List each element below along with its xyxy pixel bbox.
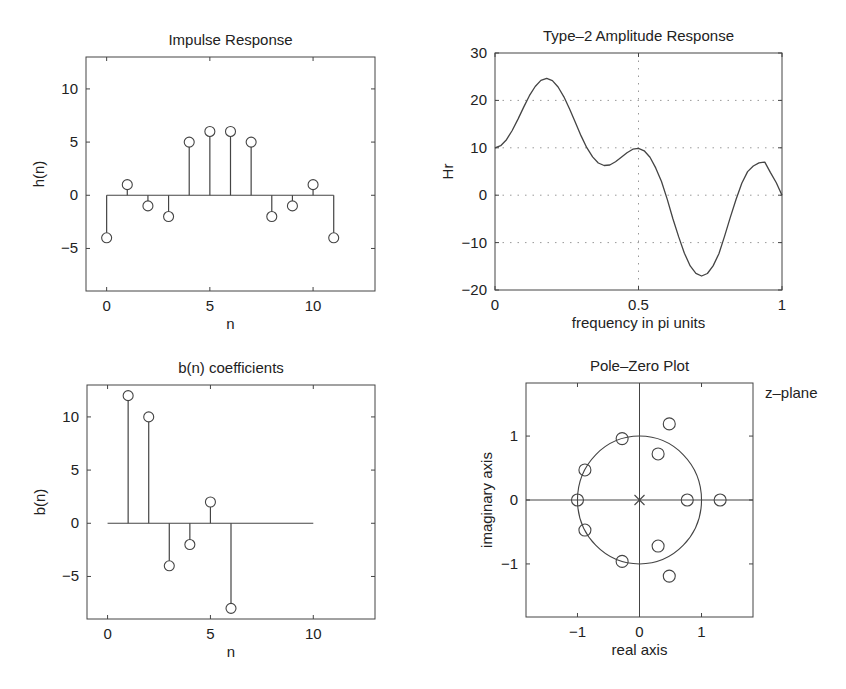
b-coefficients-chart: 0510−50510b(n) coefficientsnb(n) (31, 359, 375, 660)
x-axis-label: n (226, 315, 234, 332)
zero-marker (652, 448, 664, 460)
y-tick-label: 10 (62, 408, 79, 425)
pole-zero-chart: −101−101Pole–Zero Plotreal axisimaginary… (478, 357, 818, 658)
x-axis-label: frequency in pi units (572, 314, 705, 331)
y-tick-label: −5 (62, 567, 79, 584)
y-axis-label: b(n) (31, 489, 48, 516)
zero-marker (663, 418, 675, 430)
x-tick-label: 0 (103, 625, 111, 642)
stem-marker (102, 233, 112, 243)
y-axis-label: h(n) (30, 161, 47, 188)
stem-marker (122, 180, 132, 190)
stem-marker (205, 126, 215, 136)
x-tick-label: 5 (206, 297, 214, 314)
x-tick-label: −1 (569, 623, 586, 640)
x-tick-label: 1 (697, 623, 705, 640)
figure: 0510−50510Impulse Responsenh(n) 00.51−20… (0, 0, 846, 689)
y-tick-label: 0 (70, 186, 78, 203)
stem-marker (143, 201, 153, 211)
y-axis-label: imaginary axis (478, 452, 495, 548)
zero-marker (652, 540, 664, 552)
figure-canvas: 0510−50510Impulse Responsenh(n) 00.51−20… (0, 0, 846, 689)
x-axis-label: n (227, 643, 235, 660)
zero-marker (663, 570, 675, 582)
axes-box (495, 53, 782, 290)
x-tick-label: 10 (305, 625, 322, 642)
stem-marker (287, 201, 297, 211)
stem-marker (164, 561, 174, 571)
chart-title: Pole–Zero Plot (590, 357, 690, 374)
z-plane-annotation: z–plane (765, 384, 818, 401)
amplitude-curve (495, 78, 782, 276)
stem-marker (205, 497, 215, 507)
stem-marker (267, 212, 277, 222)
impulse-response-chart: 0510−50510Impulse Responsenh(n) (30, 31, 375, 332)
y-tick-label: 10 (470, 139, 487, 156)
y-tick-label: 0 (71, 514, 79, 531)
x-tick-label: 1 (778, 296, 786, 313)
amplitude-response-chart: 00.51−20−100102030Type–2 Amplitude Respo… (439, 27, 786, 331)
y-tick-label: 20 (470, 91, 487, 108)
x-tick-label: 5 (206, 625, 214, 642)
stem-marker (226, 126, 236, 136)
y-tick-label: 5 (71, 461, 79, 478)
y-axis-label: Hr (439, 164, 456, 180)
y-tick-label: 0 (479, 186, 487, 203)
y-tick-label: 0 (510, 491, 518, 508)
x-tick-label: 10 (305, 297, 322, 314)
stem-marker (308, 180, 318, 190)
x-tick-label: 0 (635, 623, 643, 640)
y-tick-label: −5 (61, 239, 78, 256)
x-axis-label: real axis (612, 641, 668, 658)
x-tick-label: 0 (102, 297, 110, 314)
stem-marker (246, 137, 256, 147)
stem-marker (123, 391, 133, 401)
stem-marker (185, 540, 195, 550)
x-tick-label: 0 (491, 296, 499, 313)
chart-title: Impulse Response (168, 31, 292, 48)
y-tick-label: −20 (462, 281, 487, 298)
chart-title: Type–2 Amplitude Response (543, 27, 734, 44)
y-tick-label: 30 (470, 44, 487, 61)
y-tick-label: 5 (70, 133, 78, 150)
stem-marker (164, 212, 174, 222)
y-tick-label: 10 (61, 80, 78, 97)
y-tick-label: 1 (510, 427, 518, 444)
x-tick-label: 0.5 (628, 296, 649, 313)
stem-marker (144, 412, 154, 422)
stem-marker (226, 603, 236, 613)
y-tick-label: −10 (462, 234, 487, 251)
stem-marker (329, 233, 339, 243)
stem-marker (184, 137, 194, 147)
y-tick-label: −1 (501, 555, 518, 572)
chart-title: b(n) coefficients (178, 359, 284, 376)
